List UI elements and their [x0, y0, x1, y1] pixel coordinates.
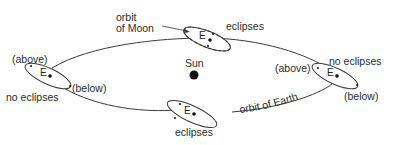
right-above-label: (above)	[275, 63, 311, 74]
moon-dot-left-below	[69, 85, 71, 87]
sun-icon	[190, 71, 199, 80]
right-below-label: (below)	[344, 91, 378, 102]
left-no-eclipses-label: no eclipses	[6, 92, 59, 103]
earth-label-bottom: E	[184, 106, 191, 116]
earth-label-right: E	[327, 68, 334, 78]
moon-dot-bottom-lower	[174, 117, 176, 119]
top-eclipses-label: eclipses	[226, 21, 264, 32]
bottom-eclipses-label: eclipses	[175, 127, 213, 138]
earth-dot-left	[48, 74, 52, 78]
moon-dot-bottom-upper	[179, 103, 181, 105]
earth-label-top: E	[199, 31, 206, 41]
orbit-moon-label-line2: of Moon	[116, 23, 154, 34]
earth-dot-bottom	[192, 112, 196, 116]
moon-dot-right-below	[356, 84, 358, 86]
right-no-eclipses-label: no eclipses	[329, 56, 382, 67]
left-below-label: (below)	[72, 83, 106, 94]
orbit-moon-label-line1: orbit	[116, 12, 136, 23]
earth-dot-right	[335, 74, 339, 78]
moon-dot-top-lower	[207, 45, 209, 47]
eclipse-diagram: orbit of Earth E E E E orbit of Moon ecl…	[0, 0, 397, 145]
sun-label: Sun	[185, 58, 204, 69]
diagram-graphics: orbit of Earth	[0, 0, 397, 145]
moon-dot-left-above	[30, 65, 32, 67]
earth-dot-top	[208, 38, 212, 42]
left-above-label: (above)	[12, 54, 48, 65]
moon-dot-top-upper	[212, 33, 214, 35]
orbit-earth-label: orbit of Earth	[239, 90, 300, 115]
moon-dot-right-above	[317, 67, 319, 69]
earth-label-left: E	[40, 68, 47, 78]
